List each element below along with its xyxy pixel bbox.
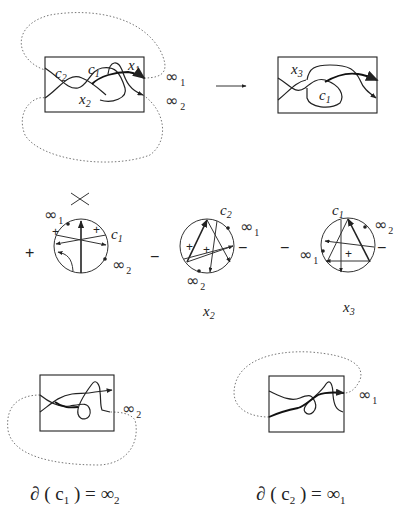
label-c1: c1 bbox=[88, 61, 100, 79]
gauss-label-c2: c2 bbox=[220, 202, 232, 220]
caption-x3: x3 bbox=[342, 299, 355, 317]
equation-boundary-c2: ∂ ( c2 ) = ∞1 bbox=[256, 483, 346, 506]
knot-diagram-figure: c2 c1 x1 x2 ∞1 ∞2 x3 c1 + + + c1 bbox=[0, 0, 394, 516]
bottom-right-tangle: ∞1 ∂ ( c2 ) = ∞1 bbox=[234, 352, 377, 506]
svg-text:∞1: ∞1 bbox=[240, 217, 259, 238]
gauss-diagram-x2: − + + − c2 ∞1 ∞2 x2 bbox=[150, 202, 259, 321]
label-x3: x3 bbox=[290, 61, 303, 79]
gauss-circle-3 bbox=[321, 218, 375, 272]
svg-text:+: + bbox=[52, 225, 59, 239]
label-c1-right: c1 bbox=[319, 87, 331, 105]
infinity-1-label: ∞1 bbox=[165, 67, 185, 88]
svg-text:+: + bbox=[345, 247, 352, 261]
svg-text:−: − bbox=[238, 239, 247, 256]
svg-text:∞2: ∞2 bbox=[112, 255, 131, 276]
gauss-diagram-x3: − + − c1 ∞2 ∞1 x3 bbox=[280, 202, 393, 317]
top-left-tangle: c2 c1 x1 x2 ∞1 ∞2 bbox=[21, 13, 185, 162]
svg-text:+: + bbox=[93, 223, 100, 237]
gauss-diagram-c1: + + + c1 ∞1 ∞2 bbox=[25, 193, 131, 276]
dotted-closure-lower bbox=[22, 95, 162, 162]
svg-text:+: + bbox=[203, 243, 210, 257]
gauss-label-c1-b: c1 bbox=[332, 202, 344, 220]
crossing-icon bbox=[71, 193, 89, 205]
label-x2: x2 bbox=[78, 91, 91, 109]
svg-text:+: + bbox=[186, 240, 193, 254]
svg-text:∞1: ∞1 bbox=[299, 245, 318, 266]
svg-text:−: − bbox=[377, 239, 386, 256]
svg-text:∞1: ∞1 bbox=[44, 205, 63, 226]
term-sign-2: − bbox=[150, 248, 159, 265]
svg-text:∞2: ∞2 bbox=[374, 215, 393, 236]
top-right-tangle: x3 c1 bbox=[278, 57, 377, 113]
svg-text:∞2: ∞2 bbox=[186, 271, 205, 292]
term-sign-3: − bbox=[280, 239, 289, 256]
strand-r1 bbox=[278, 78, 342, 107]
strand-r4 bbox=[325, 73, 377, 82]
gauss-label-c1: c1 bbox=[111, 226, 123, 244]
infinity-2-label: ∞2 bbox=[165, 91, 185, 112]
term-sign-1: + bbox=[25, 244, 34, 261]
svg-text:∞1: ∞1 bbox=[358, 385, 377, 406]
label-c2: c2 bbox=[55, 65, 67, 83]
bottom-left-tangle: ∞2 ∂ ( c1 ) = ∞2 bbox=[8, 375, 142, 506]
caption-x2: x2 bbox=[202, 303, 215, 321]
svg-text:∞2: ∞2 bbox=[122, 399, 141, 420]
equation-boundary-c1: ∂ ( c1 ) = ∞2 bbox=[30, 483, 120, 506]
label-x1: x1 bbox=[127, 57, 140, 75]
